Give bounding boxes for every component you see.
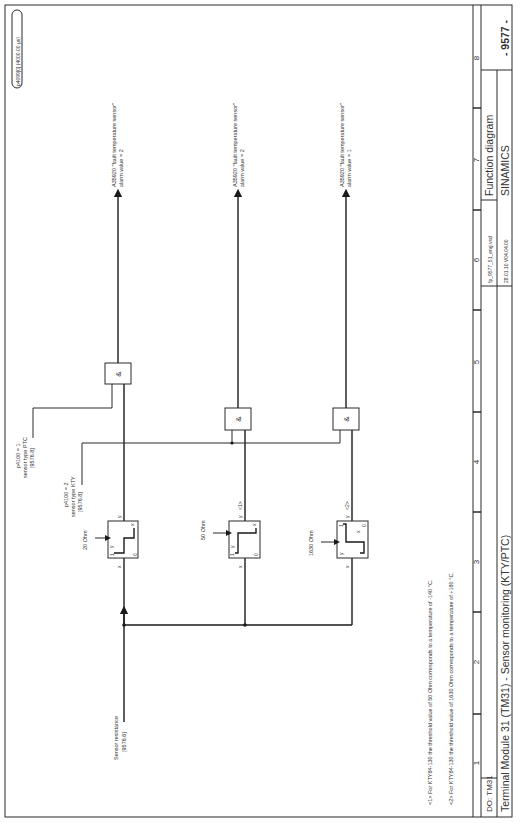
- page-border: [5, 5, 512, 817]
- svg-text:p4100 = 1: p4100 = 1: [15, 443, 21, 468]
- output-alarm-2: A35920 "fault temperature sensor" alarm …: [232, 103, 245, 187]
- svg-text:y: y: [237, 515, 243, 518]
- footnote-2: <2> For KTY84-130 the threshold value of…: [448, 572, 454, 805]
- svg-text:x: x: [116, 565, 122, 568]
- function-diagram-page: 1 2 3 4 5 6 7 8 DO: TM31 Terminal Module…: [0, 0, 530, 823]
- svg-text:sensor type KTY: sensor type KTY: [70, 476, 76, 517]
- svg-text:1: 1: [229, 553, 235, 556]
- diagram-title: Terminal Module 31 (TM31) - Sensor monit…: [499, 535, 511, 812]
- comparator-50-ohm: y 1 0 x x y <1> 50 Ohm: [200, 501, 260, 568]
- junction-dot: [230, 441, 233, 444]
- svg-text:1: 1: [472, 760, 481, 765]
- svg-text:<1>: <1>: [237, 501, 243, 510]
- svg-text:&: &: [342, 416, 351, 422]
- svg-text:7: 7: [472, 157, 481, 162]
- svg-text:1630 Ohm: 1630 Ohm: [308, 530, 314, 556]
- product-name: SINAMICS: [499, 145, 511, 196]
- ptc-select-label: p4100 = 1 sensor type PTC [9576.8]: [15, 437, 35, 478]
- and-gate-3: &: [333, 408, 359, 430]
- svg-text:<2>: <2>: [344, 501, 350, 510]
- doc-type: Function diagram: [483, 115, 495, 196]
- svg-text:6: 6: [472, 257, 481, 262]
- svg-text:sensor type PTC: sensor type PTC: [22, 437, 28, 478]
- svg-text:[9576.6]: [9576.6]: [121, 732, 127, 752]
- svg-text:0: 0: [253, 553, 259, 556]
- date-version: 28.01.10 V04.04.00: [503, 239, 509, 283]
- svg-text:alarm value = 1: alarm value = 1: [346, 149, 352, 187]
- junction-dot: [122, 623, 126, 627]
- sensor-resistance-label: Sensor resistance [9576.6]: [113, 716, 127, 760]
- svg-text:1: 1: [338, 524, 344, 527]
- sampling-badge-text: p4099[0] (4000.00 µs): [15, 37, 21, 86]
- svg-text:&: &: [234, 416, 243, 422]
- svg-text:x: x: [237, 565, 243, 568]
- svg-text:20 Ohm: 20 Ohm: [82, 530, 88, 550]
- output-alarm-1: A35920 "fault temperature sensor" alarm …: [111, 103, 124, 187]
- svg-text:1: 1: [109, 553, 115, 556]
- svg-text:alarm value = 2: alarm value = 2: [239, 149, 245, 187]
- file-name: fp_9577_51_eng.vsd: [487, 236, 493, 283]
- output-alarm-3: A35920 "fault temperature sensor" alarm …: [339, 103, 352, 187]
- page-number: - 9577 -: [499, 19, 511, 56]
- svg-text:0: 0: [132, 553, 138, 556]
- comparator-1630-ohm: y 1 0 x x y <2> 1630 Ohm: [308, 501, 368, 568]
- svg-text:&: &: [114, 371, 123, 377]
- svg-text:50 Ohm: 50 Ohm: [200, 520, 206, 540]
- svg-text:y: y: [116, 515, 122, 518]
- and-gate-1: &: [105, 363, 131, 384]
- kty-select-label: p4100 = 2 sensor type KTY [9576.8]: [63, 476, 83, 517]
- svg-text:y: y: [344, 515, 350, 518]
- svg-text:Sensor resistance: Sensor resistance: [113, 716, 119, 760]
- junction-dot: [243, 623, 247, 627]
- footnote-1: <1> For KTY84-130 the threshold value of…: [427, 579, 433, 805]
- svg-text:5: 5: [472, 359, 481, 364]
- svg-text:x: x: [344, 565, 350, 568]
- svg-text:0: 0: [361, 524, 367, 527]
- and-gate-2: &: [225, 408, 251, 430]
- svg-text:[9576.8]: [9576.8]: [77, 492, 83, 512]
- svg-text:A35920 "fault temperature sens: A35920 "fault temperature sensor": [339, 103, 345, 187]
- drive-object-label: DO: TM31: [485, 775, 494, 812]
- svg-text:2: 2: [472, 659, 481, 664]
- svg-text:A35920 "fault temperature sens: A35920 "fault temperature sensor": [111, 103, 117, 187]
- svg-text:3: 3: [472, 559, 481, 564]
- comparator-20-ohm: y 1 0 x x y 20 Ohm: [82, 515, 138, 568]
- column-ruler: [473, 108, 481, 714]
- svg-text:p4100 = 2: p4100 = 2: [63, 482, 69, 507]
- svg-text:4: 4: [472, 459, 481, 464]
- svg-text:[9576.8]: [9576.8]: [29, 448, 35, 468]
- svg-text:A35920 "fault temperature sens: A35920 "fault temperature sensor": [232, 103, 238, 187]
- svg-text:8: 8: [472, 55, 481, 60]
- svg-text:alarm value = 2: alarm value = 2: [118, 149, 124, 187]
